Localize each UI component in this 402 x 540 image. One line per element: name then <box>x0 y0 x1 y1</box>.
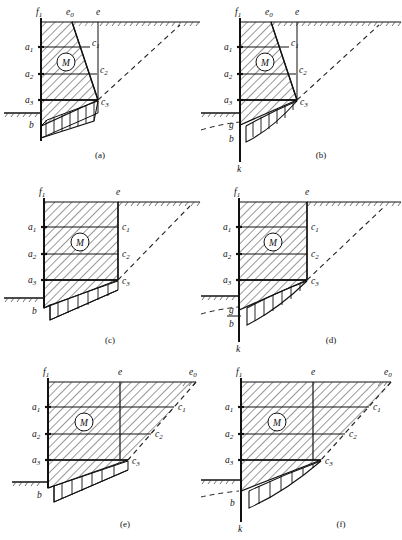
label-e0-f: e0 <box>384 367 392 379</box>
label-a2-a: a2 <box>25 69 34 81</box>
label-f1-c: f1 <box>39 187 45 199</box>
excavation-line-a <box>4 113 41 117</box>
label-a1-c: a1 <box>28 222 36 234</box>
label-e-a: e <box>96 7 100 17</box>
label-c3-f: c3 <box>325 456 333 468</box>
label-b-a: b <box>29 120 34 130</box>
label-b-c: b <box>32 306 37 316</box>
label-g-b: g <box>229 120 234 130</box>
label-f1-e: f1 <box>43 367 49 379</box>
label-c1-e: c1 <box>178 402 186 414</box>
ground-surface-c <box>118 202 200 206</box>
soil-wedge-e <box>48 382 196 460</box>
label-c1-f: c1 <box>373 402 381 414</box>
label-e-c: e <box>116 187 120 197</box>
label-e0-b: e0 <box>265 7 273 19</box>
label-k-f: k <box>238 524 243 534</box>
panel-e: M f1 e e0 a1 a2 a3 c1 c2 c3 b (e) <box>0 360 201 540</box>
label-a3-b: a3 <box>224 95 233 107</box>
label-a2-b: a2 <box>224 69 233 81</box>
label-b-f: b <box>230 498 235 508</box>
mass-label-d: M <box>268 238 278 248</box>
label-c3-a: c3 <box>101 97 109 109</box>
label-a1-e: a1 <box>32 402 40 414</box>
ground-surface-a <box>72 22 200 26</box>
label-c3-c: c3 <box>122 276 130 288</box>
label-e-d: e <box>305 187 309 197</box>
label-b-d: b <box>229 319 234 329</box>
caption-e: (e) <box>120 519 130 529</box>
label-a2-d: a2 <box>223 249 232 261</box>
label-e-e: e <box>118 367 122 377</box>
soil-wedge-lower-b <box>240 100 297 125</box>
panel-b: M f1 e0 e a1 a2 a3 c1 c2 c3 g b k (b) <box>201 0 402 180</box>
label-c2-f: c2 <box>349 429 357 441</box>
g-line-b <box>201 122 240 130</box>
soil-wedge-f <box>241 382 391 460</box>
failure-surface-d <box>307 206 385 280</box>
label-k-b: k <box>237 164 242 174</box>
label-e-f: e <box>311 367 315 377</box>
panel-a: M f1 e0 e a1 a2 a3 c1 c2 c3 b (a) <box>0 0 201 180</box>
mass-label-c: M <box>75 238 85 248</box>
mass-label-e: M <box>79 418 89 428</box>
failure-surface-b <box>297 25 379 100</box>
label-c1-b: c1 <box>291 38 299 50</box>
panel-d: M f1 e a1 a2 a3 c1 c2 c3 g b k (d) <box>201 180 402 360</box>
panel-f: M f1 e e0 a1 a2 a3 c1 c2 c3 b k (f) <box>201 360 402 540</box>
failure-surface-a <box>98 25 180 100</box>
ground-surface-b <box>271 22 401 26</box>
mass-label-b: M <box>260 58 270 68</box>
excavation-line-b <box>201 113 240 117</box>
label-a3-a: a3 <box>25 95 34 107</box>
label-c1-c: c1 <box>122 222 130 234</box>
label-c3-e: c3 <box>132 456 140 468</box>
label-a3-e: a3 <box>32 455 41 467</box>
panel-c: M f1 e a1 a2 a3 c1 c2 c3 b (c) <box>0 180 201 360</box>
figure-root: M f1 e0 e a1 a2 a3 c1 c2 c3 b (a) <box>0 0 402 540</box>
label-f1-f: f1 <box>236 367 242 379</box>
failure-surface-c <box>118 206 190 280</box>
label-c2-e: c2 <box>155 429 163 441</box>
label-a1-d: a1 <box>223 222 231 234</box>
caption-c: (c) <box>105 335 115 345</box>
label-c1-a: c1 <box>92 38 100 50</box>
label-c3-d: c3 <box>311 276 319 288</box>
caption-b: (b) <box>316 150 327 160</box>
label-e0-a: e0 <box>66 7 74 19</box>
label-b-e: b <box>37 490 42 500</box>
label-g-d: g <box>229 305 234 315</box>
excavation-line-f <box>201 480 241 484</box>
ground-surface-d <box>307 202 401 206</box>
mass-label-a: M <box>61 58 71 68</box>
label-c1-d: c1 <box>311 222 319 234</box>
caption-f: (f) <box>337 519 346 529</box>
excavation-line-c <box>4 298 44 302</box>
label-c3-b: c3 <box>300 97 308 109</box>
label-b-b: b <box>229 134 234 144</box>
label-e-b: e <box>295 7 299 17</box>
label-f1-d: f1 <box>234 187 240 199</box>
label-c2-b: c2 <box>299 65 307 77</box>
excavation-line-e <box>12 482 48 486</box>
excavation-line-d <box>201 296 239 300</box>
label-a3-f: a3 <box>225 455 234 467</box>
label-a1-a: a1 <box>25 42 33 54</box>
g-line-f <box>201 491 239 497</box>
label-c2-a: c2 <box>100 65 108 77</box>
label-a2-c: a2 <box>28 249 37 261</box>
label-a1-b: a1 <box>224 42 232 54</box>
label-a2-e: a2 <box>32 429 41 441</box>
mass-label-f: M <box>272 418 282 428</box>
caption-a: (a) <box>95 150 105 160</box>
label-f1-b: f1 <box>235 7 241 19</box>
label-a1-f: a1 <box>225 402 233 414</box>
caption-d: (d) <box>326 335 337 345</box>
label-a3-d: a3 <box>223 275 232 287</box>
label-f1-a: f1 <box>36 7 42 19</box>
label-k-d: k <box>236 344 241 354</box>
label-a3-c: a3 <box>28 275 37 287</box>
label-c2-c: c2 <box>122 249 130 261</box>
label-a2-f: a2 <box>225 429 234 441</box>
label-e0-e: e0 <box>189 367 197 379</box>
